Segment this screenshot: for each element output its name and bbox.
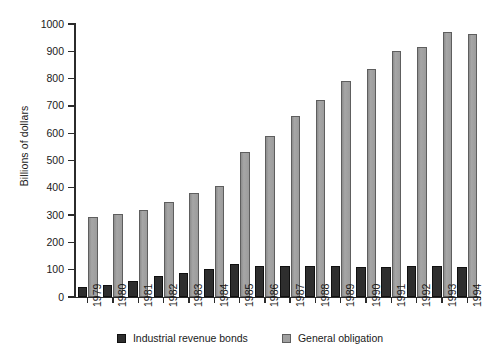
y-axis-tick bbox=[68, 214, 75, 215]
x-axis-tick bbox=[391, 297, 392, 303]
y-axis-tick-label: 1000 bbox=[28, 19, 64, 30]
x-axis-tick-label: 1984 bbox=[219, 284, 230, 307]
bar-general-obligation-1991 bbox=[392, 51, 402, 297]
y-axis-tick bbox=[68, 51, 75, 52]
x-axis-tick bbox=[315, 297, 316, 303]
x-axis-tick bbox=[365, 297, 366, 303]
x-axis-tick bbox=[239, 297, 240, 303]
y-axis-tick bbox=[68, 160, 75, 161]
bar-industrial-revenue-bonds-1989 bbox=[331, 266, 341, 297]
x-axis-tick bbox=[340, 297, 341, 303]
bar-general-obligation-1983 bbox=[189, 193, 199, 297]
bar-group bbox=[154, 24, 174, 297]
bar-general-obligation-1994 bbox=[468, 34, 478, 297]
bar-group bbox=[457, 24, 477, 297]
x-axis-tick-label: 1981 bbox=[143, 284, 154, 307]
x-axis-tick-label: 1991 bbox=[396, 284, 407, 307]
bar-general-obligation-1990 bbox=[367, 69, 377, 297]
x-axis-tick bbox=[163, 297, 164, 303]
bar-group bbox=[179, 24, 199, 297]
gray-square-swatch bbox=[282, 334, 291, 343]
bar-industrial-revenue-bonds-1986 bbox=[255, 266, 265, 297]
x-axis-tick-label: 1989 bbox=[345, 284, 356, 307]
x-axis-tick bbox=[87, 297, 88, 303]
y-axis-tick bbox=[68, 133, 75, 134]
bar-general-obligation-1992 bbox=[417, 47, 427, 297]
bar-general-obligation-1984 bbox=[215, 186, 225, 297]
x-axis-tick bbox=[112, 297, 113, 303]
bar-industrial-revenue-bonds-1984 bbox=[204, 269, 214, 297]
bar-group bbox=[305, 24, 325, 297]
bar-group bbox=[103, 24, 123, 297]
x-axis-tick bbox=[188, 297, 189, 303]
bar-industrial-revenue-bonds-1980 bbox=[103, 285, 113, 297]
y-axis-tick bbox=[68, 23, 75, 24]
bar-group bbox=[331, 24, 351, 297]
legend-label: General obligation bbox=[298, 332, 383, 344]
y-axis-tick-label: 500 bbox=[28, 155, 64, 166]
bar-general-obligation-1993 bbox=[443, 32, 453, 297]
bar-group bbox=[381, 24, 401, 297]
y-axis-tick bbox=[68, 242, 75, 243]
x-axis-tick-label: 1985 bbox=[244, 284, 255, 307]
bar-group bbox=[432, 24, 452, 297]
bar-industrial-revenue-bonds-1985 bbox=[230, 264, 240, 297]
x-axis-tick-label: 1979 bbox=[92, 284, 103, 307]
x-axis-tick-label: 1992 bbox=[421, 284, 432, 307]
y-axis-tick-label: 200 bbox=[28, 237, 64, 248]
y-axis-tick-label: 400 bbox=[28, 182, 64, 193]
x-axis-tick-label: 1990 bbox=[371, 284, 382, 307]
bar-group bbox=[255, 24, 275, 297]
bar-industrial-revenue-bonds-1982 bbox=[154, 276, 164, 297]
x-axis-tick bbox=[441, 297, 442, 303]
y-axis-tick-label: 700 bbox=[28, 100, 64, 111]
bar-general-obligation-1989 bbox=[341, 81, 351, 297]
bar-group bbox=[407, 24, 427, 297]
bar-industrial-revenue-bonds-1988 bbox=[305, 266, 315, 297]
y-axis-tick-label: 300 bbox=[28, 210, 64, 221]
legend-label: Industrial revenue bonds bbox=[133, 332, 248, 344]
bar-industrial-revenue-bonds-1993 bbox=[432, 266, 442, 297]
bar-general-obligation-1987 bbox=[291, 116, 301, 297]
bar-industrial-revenue-bonds-1981 bbox=[128, 281, 138, 297]
y-axis-tick bbox=[68, 296, 75, 297]
y-axis-tick-label: 800 bbox=[28, 73, 64, 84]
bar-industrial-revenue-bonds-1987 bbox=[280, 266, 290, 297]
chart-legend: Industrial revenue bondsGeneral obligati… bbox=[0, 332, 500, 344]
y-axis-tick bbox=[68, 269, 75, 270]
x-axis-tick-label: 1980 bbox=[117, 284, 128, 307]
x-axis-tick bbox=[214, 297, 215, 303]
x-axis-tick bbox=[289, 297, 290, 303]
y-axis-tick bbox=[68, 105, 75, 106]
bar-group bbox=[230, 24, 250, 297]
bar-group bbox=[78, 24, 98, 297]
bar-general-obligation-1985 bbox=[240, 152, 250, 298]
x-axis-tick-label: 1986 bbox=[269, 284, 280, 307]
bar-group bbox=[204, 24, 224, 297]
y-axis-tick-label: 100 bbox=[28, 264, 64, 275]
x-axis-tick-label: 1993 bbox=[447, 284, 458, 307]
y-axis-tick-label: 600 bbox=[28, 128, 64, 139]
y-axis-tick bbox=[68, 187, 75, 188]
x-axis-tick-label: 1983 bbox=[193, 284, 204, 307]
dark-square-swatch bbox=[117, 334, 126, 343]
legend-item: General obligation bbox=[282, 332, 383, 344]
bar-industrial-revenue-bonds-1983 bbox=[179, 273, 189, 297]
bar-general-obligation-1988 bbox=[316, 100, 326, 297]
bar-industrial-revenue-bonds-1990 bbox=[356, 267, 366, 297]
bar-industrial-revenue-bonds-1979 bbox=[78, 287, 88, 297]
bar-group bbox=[128, 24, 148, 297]
x-axis-tick-label: 1982 bbox=[168, 284, 179, 307]
x-axis-tick bbox=[264, 297, 265, 303]
bar-industrial-revenue-bonds-1992 bbox=[407, 266, 417, 297]
plot-area bbox=[75, 24, 480, 297]
y-axis-tick-label: 0 bbox=[28, 292, 64, 303]
y-axis-tick-label: 900 bbox=[28, 46, 64, 57]
y-axis-tick bbox=[68, 78, 75, 79]
legend-item: Industrial revenue bonds bbox=[117, 332, 248, 344]
bar-group bbox=[356, 24, 376, 297]
x-axis-tick bbox=[138, 297, 139, 303]
x-axis-tick bbox=[416, 297, 417, 303]
x-axis-tick-label: 1988 bbox=[320, 284, 331, 307]
x-axis-tick-label: 1994 bbox=[472, 284, 483, 307]
